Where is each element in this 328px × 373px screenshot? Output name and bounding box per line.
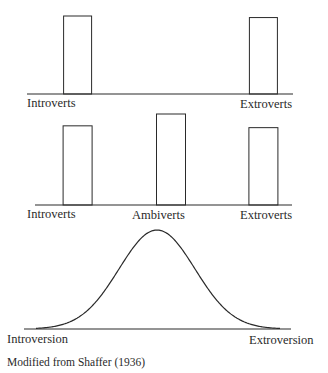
chart2-label-extroverts: Extroverts [240, 209, 292, 222]
bar-introverts [64, 16, 92, 94]
bar-extroverts [249, 128, 278, 205]
chart-dichotomy [27, 16, 293, 94]
chart-normal-curve [24, 230, 291, 329]
chart3-label-introversion: Introversion [7, 333, 68, 346]
chart3-label-extroversion: Extroversion [249, 334, 314, 347]
chart2-label-ambiverts: Ambiverts [132, 209, 185, 222]
bar-introverts [63, 126, 92, 205]
chart2-label-introverts: Introverts [27, 208, 76, 221]
chart1-label-introverts: Introverts [27, 97, 76, 110]
bar-ambiverts [157, 114, 186, 205]
normal-curve [36, 230, 280, 328]
chart-three-types [35, 114, 292, 205]
chart1-label-extroverts: Extroverts [240, 98, 292, 111]
figure-canvas [0, 0, 328, 373]
bar-extroverts [249, 18, 277, 94]
figure-caption: Modified from Shaffer (1936) [7, 357, 145, 369]
